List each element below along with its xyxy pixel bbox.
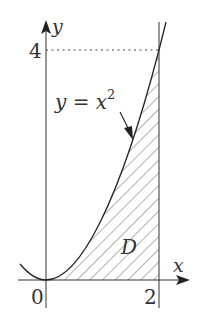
curve-label-base: y = x — [54, 90, 107, 114]
axis-y-label: y — [51, 15, 63, 37]
region-label: D — [120, 235, 137, 259]
tick-origin-label: 0 — [31, 285, 44, 309]
tick-x-label: 2 — [144, 285, 157, 309]
tick-y-label: 4 — [29, 39, 42, 63]
curve-label-exponent: 2 — [107, 87, 115, 102]
axis-x-label: x — [173, 254, 184, 276]
pointer-arrow-icon — [124, 126, 133, 140]
diagram-canvas: y 4 y = x2 D x 0 2 — [0, 0, 206, 331]
region-d — [46, 40, 160, 281]
curve-label: y = x2 — [54, 87, 115, 114]
